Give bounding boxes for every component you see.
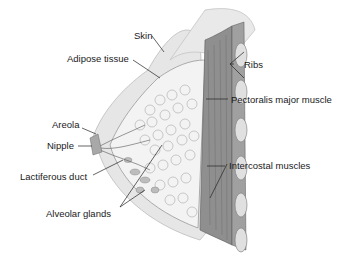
label-nipple: Nipple (47, 140, 74, 151)
label-adipose-tissue: Adipose tissue (67, 53, 129, 64)
label-intercostal-muscles: Intercostal muscles (229, 160, 310, 171)
label-alveolar-glands: Alveolar glands (46, 208, 111, 219)
label-ribs: Ribs (244, 59, 263, 70)
label-skin: Skin (134, 30, 152, 41)
label-areola: Areola (52, 119, 79, 130)
label-pectoralis-major-muscle: Pectoralis major muscle (231, 94, 332, 105)
adipose-region (110, 60, 205, 228)
label-lactiferous-duct: Lactiferous duct (20, 171, 87, 182)
